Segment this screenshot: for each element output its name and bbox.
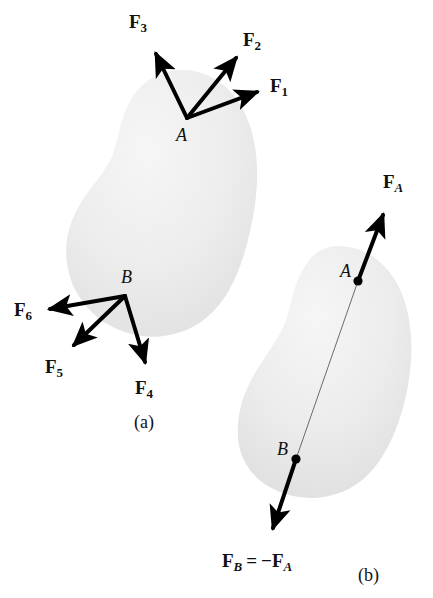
force-label-fb-base: F — [222, 550, 234, 571]
caption-panel-a: (a) — [134, 413, 154, 431]
force-label-f4: F4 — [135, 378, 153, 397]
force-label-fa-sub: A — [395, 180, 404, 195]
point-label-b-panel-a: B — [121, 268, 132, 286]
force-label-f1: F1 — [270, 76, 288, 95]
force-label-f1-sub: 1 — [282, 84, 289, 99]
force-label-fb-sub: B — [234, 559, 243, 574]
force-label-f2: F2 — [243, 30, 261, 49]
force-label-f3: F3 — [129, 12, 147, 31]
force-label-fb-equation: FB=−FA — [222, 551, 292, 570]
force-label-fa-ref-base: F — [272, 550, 284, 571]
force-label-f5-sub: 5 — [57, 365, 64, 380]
force-label-f4-base: F — [135, 377, 147, 398]
force-label-f6-sub: 6 — [26, 308, 33, 323]
caption-panel-b: (b) — [358, 566, 379, 584]
point-label-b-panel-b: B — [277, 440, 288, 458]
equals-sign: = — [242, 550, 261, 571]
force-label-f3-base: F — [129, 11, 141, 32]
force-label-fa-base: F — [383, 171, 395, 192]
minus-sign: − — [261, 550, 272, 571]
force-label-f5: F5 — [45, 357, 63, 376]
rigid-body-a — [66, 70, 257, 337]
force-diagram-figure: F1 F2 F3 F4 F5 F6 A B (a) FA FB=−FA A B … — [0, 0, 433, 598]
figure-canvas — [0, 0, 433, 598]
force-label-f6-base: F — [14, 299, 26, 320]
force-label-f5-base: F — [45, 356, 57, 377]
force-label-f2-sub: 2 — [255, 38, 262, 53]
point-label-a-panel-a: A — [176, 126, 187, 144]
force-label-f4-sub: 4 — [147, 386, 154, 401]
force-label-f3-sub: 3 — [141, 20, 148, 35]
point-dot-b — [291, 454, 300, 463]
point-dot-a — [353, 276, 362, 285]
force-label-f6: F6 — [14, 300, 32, 319]
force-label-f2-base: F — [243, 29, 255, 50]
force-label-f1-base: F — [270, 75, 282, 96]
force-label-fa-ref-sub: A — [284, 559, 293, 574]
rigid-body-b — [238, 246, 412, 498]
point-label-a-panel-b: A — [340, 262, 351, 280]
force-label-fa: FA — [383, 172, 403, 191]
